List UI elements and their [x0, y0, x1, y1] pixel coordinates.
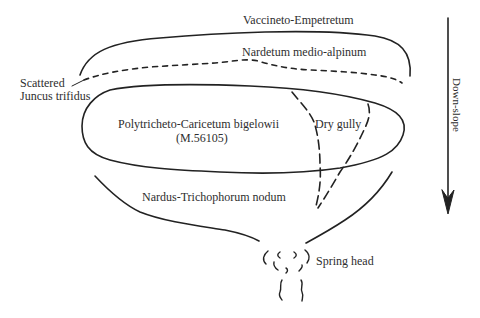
- nardus-left-boundary: [95, 176, 259, 241]
- label-dry-gully: Dry gully: [315, 117, 361, 131]
- label-nardetum-medio-alpinum: Nardetum medio-alpinum: [242, 45, 366, 59]
- label-down-slope: Down-slope: [451, 78, 463, 132]
- label-nardus-trichophorum-nodum: Nardus-Trichophorum nodum: [142, 190, 286, 204]
- label-juncus-trifidus: Juncus trifidus: [20, 89, 90, 103]
- dry-gully-left-line: [292, 92, 320, 206]
- vegetation-diagram: Vaccineto-Empetretum Nardetum medio-alpi…: [0, 0, 480, 318]
- spring-head-marks: [264, 250, 310, 301]
- label-scattered: Scattered: [20, 76, 65, 90]
- label-vaccineto-empetretum: Vaccineto-Empetretum: [243, 13, 354, 27]
- label-spring-head: Spring head: [316, 254, 374, 268]
- label-m56105: (M.56105): [176, 131, 228, 145]
- nardetum-dashed-line: [84, 60, 402, 83]
- juncus-pointer-line: [72, 80, 84, 86]
- diagram-lines: [0, 0, 480, 318]
- label-polytricheto-caricetum: Polytricheto-Caricetum bigelowii: [118, 117, 279, 131]
